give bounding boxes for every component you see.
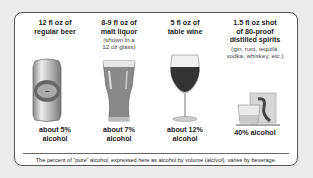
drink-header-wine: 5 fl oz of table wine xyxy=(155,19,215,36)
abv-line: alcohol xyxy=(155,135,215,144)
shot-glass-icon xyxy=(236,91,280,127)
drink-header-beer: 12 fl oz of regular beer xyxy=(25,19,85,36)
standard-drink-card: 12 fl oz of regular beer ~ about 5% alco… xyxy=(14,12,298,166)
abv-line: 40% alcohol xyxy=(215,129,295,138)
sub-line: (gin, rum, tequila, xyxy=(215,45,295,52)
wine-glass-icon xyxy=(168,53,202,125)
drink-abv-spirits: 40% alcohol xyxy=(215,129,295,138)
svg-text:~: ~ xyxy=(45,87,50,96)
beer-glass-icon xyxy=(99,59,139,125)
drink-header-malt-liquor: 8-9 fl oz of malt liquor (shown in a 12 … xyxy=(87,19,151,51)
sub-line: (shown in a xyxy=(87,36,151,43)
drink-abv-malt-liquor: about 7% alcohol xyxy=(89,126,149,143)
sub-line: vodka, whiskey, etc.) xyxy=(215,52,295,59)
abv-line: alcohol xyxy=(25,135,85,144)
drink-header-spirits: 1.5 fl oz shot of 80-proof distilled spi… xyxy=(215,19,295,59)
header-line: table wine xyxy=(155,28,215,37)
drink-abv-wine: about 12% alcohol xyxy=(155,126,215,143)
drink-abv-beer: about 5% alcohol xyxy=(25,126,85,143)
header-line: distilled spirits xyxy=(215,36,295,45)
abv-line: alcohol xyxy=(89,135,149,144)
footnote: The percent of "pure" alcohol, expressed… xyxy=(15,157,297,163)
divider xyxy=(23,153,289,154)
header-line: regular beer xyxy=(25,28,85,37)
header-line: malt liquor xyxy=(87,28,151,37)
sub-line: 12 oz glass) xyxy=(87,43,151,50)
beer-can-icon: ~ xyxy=(30,57,64,123)
